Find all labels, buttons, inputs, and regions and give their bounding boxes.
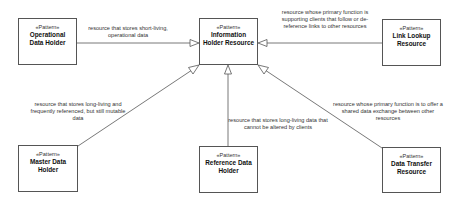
generalization-arrow-icon [189, 65, 200, 74]
node-operational-data-holder[interactable]: «Pattern» Operational Data Holder [18, 18, 77, 65]
edge-label-data-transfer: resource whose primary function is to of… [332, 101, 444, 123]
node-name: Link Lookup [383, 32, 440, 40]
node-name: Resource [383, 168, 440, 176]
stereotype-label: «Pattern» [383, 153, 440, 160]
node-name: Data Holder [19, 39, 76, 47]
node-name: Reference Data [200, 159, 257, 167]
generalization-arrow-icon [258, 40, 267, 47]
stereotype-label: «Pattern» [383, 25, 440, 32]
node-name: Information [200, 31, 257, 39]
edge-label-link-lookup: resource whose primary function is suppo… [276, 9, 374, 31]
node-name: Resource [383, 40, 440, 48]
node-name: Holder [200, 167, 257, 175]
node-information-holder-resource[interactable]: «Pattern» Information Holder Resource [199, 18, 258, 65]
stereotype-label: «Pattern» [19, 151, 77, 158]
generalization-arrow-icon [190, 40, 199, 47]
node-link-lookup-resource[interactable]: «Pattern» Link Lookup Resource [382, 19, 441, 66]
stereotype-label: «Pattern» [19, 24, 76, 31]
stereotype-label: «Pattern» [200, 24, 257, 31]
edge-label-reference: resource that stores long-living data th… [228, 117, 328, 131]
node-master-data-holder[interactable]: «Pattern» Master Data Holder [18, 145, 78, 192]
node-name: Holder Resource [200, 39, 257, 47]
node-name: Master Data [19, 158, 77, 166]
node-name: Holder [19, 166, 77, 174]
node-name: Data Transfer [383, 160, 440, 168]
node-data-transfer-resource[interactable]: «Pattern» Data Transfer Resource [382, 147, 441, 193]
node-name: Operational [19, 31, 76, 39]
edge-label-master: resource that stores long-living and fre… [30, 101, 126, 123]
edge-label-operational: resource that stores short-living, opera… [88, 25, 168, 39]
node-reference-data-holder[interactable]: «Pattern» Reference Data Holder [199, 146, 258, 193]
generalization-arrow-icon [258, 65, 269, 74]
generalization-arrow-icon [225, 65, 232, 74]
stereotype-label: «Pattern» [200, 152, 257, 159]
